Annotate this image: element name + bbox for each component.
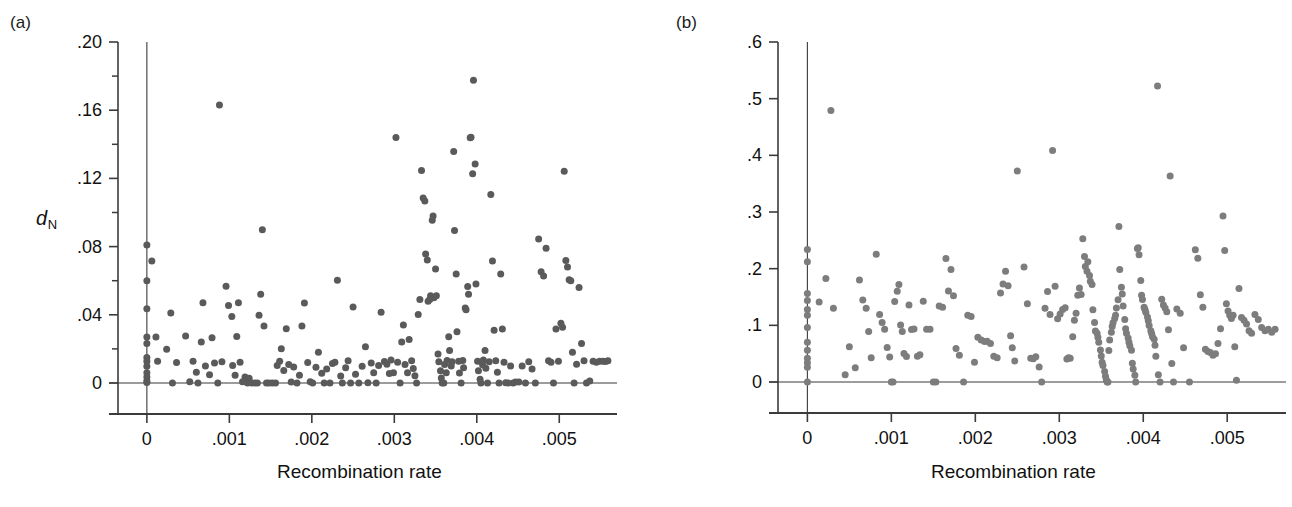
- scatter-point: [459, 357, 466, 364]
- scatter-point: [1052, 283, 1059, 290]
- scatter-point: [1089, 281, 1096, 288]
- scatter-point: [430, 212, 437, 219]
- scatter-point: [1199, 304, 1206, 311]
- scatter-point: [1230, 312, 1237, 319]
- scatter-point: [1104, 379, 1111, 386]
- x-tick-label: .005: [1187, 429, 1267, 447]
- scatter-point: [881, 326, 888, 333]
- scatter-point: [375, 362, 382, 369]
- scatter-point: [1152, 342, 1159, 349]
- scatter-point: [804, 297, 811, 304]
- scatter-point: [555, 358, 562, 365]
- scatter-point: [911, 326, 918, 333]
- scatter-point: [143, 241, 150, 248]
- scatter-point: [293, 380, 300, 387]
- scatter-point: [515, 378, 522, 385]
- scatter-point: [950, 292, 957, 299]
- scatter-point: [334, 277, 341, 284]
- scatter-point: [256, 312, 263, 319]
- scatter-point: [1079, 235, 1086, 242]
- scatter-point: [1067, 355, 1074, 362]
- scatter-point: [895, 281, 902, 288]
- scatter-point: [564, 264, 571, 271]
- scatter-point: [548, 359, 555, 366]
- scatter-point: [942, 255, 949, 262]
- scatter-point: [932, 379, 939, 386]
- scatter-point: [968, 313, 975, 320]
- scatter-point: [822, 275, 829, 282]
- scatter-point: [173, 359, 180, 366]
- scatter-point: [1136, 251, 1143, 258]
- scatter-point: [486, 358, 493, 365]
- scatter-point: [1091, 319, 1098, 326]
- scatter-point: [1151, 336, 1158, 343]
- scatter-point: [475, 367, 482, 374]
- scatter-point: [1078, 291, 1085, 298]
- scatter-point: [445, 333, 452, 340]
- scatter-point: [1073, 310, 1080, 317]
- scatter-point: [368, 359, 375, 366]
- scatter-point: [199, 299, 206, 306]
- scatter-point: [569, 349, 576, 356]
- scatter-point: [1255, 316, 1262, 323]
- scatter-point: [235, 299, 242, 306]
- scatter-point: [1177, 310, 1184, 317]
- scatter-point: [897, 322, 904, 329]
- scatter-point: [522, 380, 529, 387]
- scatter-point: [567, 277, 574, 284]
- scatter-point: [443, 369, 450, 376]
- scatter-point: [362, 343, 369, 350]
- scatter-point: [1106, 337, 1113, 344]
- x-tick-label: .004: [437, 430, 517, 448]
- scatter-point: [499, 326, 506, 333]
- scatter-point: [1180, 344, 1187, 351]
- scatter-point: [451, 227, 458, 234]
- scatter-point: [1062, 304, 1069, 311]
- x-tick-label: 0: [767, 429, 847, 447]
- scatter-point: [884, 344, 891, 351]
- scatter-point: [1132, 379, 1139, 386]
- scatter-point: [216, 102, 223, 109]
- scatter-point: [540, 272, 547, 279]
- scatter-point: [1120, 303, 1127, 310]
- scatter-point: [960, 379, 967, 386]
- scatter-point: [1231, 343, 1238, 350]
- scatter-point: [229, 362, 236, 369]
- y-tick-label: .4: [747, 146, 762, 164]
- scatter-point: [1112, 312, 1119, 319]
- scatter-point: [804, 312, 811, 319]
- scatter-point: [571, 380, 578, 387]
- scatter-point: [552, 326, 559, 333]
- scatter-point: [1137, 277, 1144, 284]
- scatter-point: [1038, 379, 1045, 386]
- scatter-point: [894, 288, 901, 295]
- scatter-point: [997, 290, 1004, 297]
- scatter-point: [304, 359, 311, 366]
- scatter-point: [1152, 353, 1159, 360]
- scatter-point: [464, 283, 471, 290]
- scatter-point: [202, 362, 209, 369]
- y-tick-label: 0: [752, 373, 762, 391]
- y-tick-label: 0: [92, 374, 102, 392]
- scatter-point: [272, 380, 279, 387]
- scatter-point: [1007, 332, 1014, 339]
- scatter-point: [994, 354, 1001, 361]
- scatter-point: [604, 357, 611, 364]
- scatter-point: [1113, 305, 1120, 312]
- scatter-point: [873, 251, 880, 258]
- scatter-point: [446, 347, 453, 354]
- scatter-point: [804, 339, 811, 346]
- scatter-point: [903, 353, 910, 360]
- x-tick-label: .002: [935, 429, 1015, 447]
- x-tick-label: .001: [851, 429, 931, 447]
- scatter-point: [886, 354, 893, 361]
- scatter-point: [562, 257, 569, 264]
- scatter-point: [193, 369, 200, 376]
- scatter-point: [373, 380, 380, 387]
- scatter-point: [1170, 379, 1177, 386]
- scatter-point: [1097, 346, 1104, 353]
- scatter-point: [939, 304, 946, 311]
- scatter-point: [581, 357, 588, 364]
- scatter-point: [1076, 284, 1083, 291]
- scatter-point: [186, 378, 193, 385]
